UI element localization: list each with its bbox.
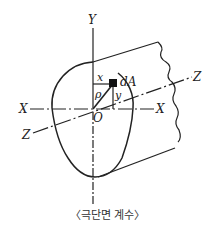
rho-label: ρ xyxy=(95,89,101,100)
dA-label: dA xyxy=(120,76,136,88)
polar-section-modulus-diagram: Y X X Z Z O dA x y ρ 〈극단면 계수〉 xyxy=(0,0,215,233)
figure-caption: 〈극단면 계수〉 xyxy=(0,206,215,222)
z-axis-right-label: Z xyxy=(193,71,201,83)
x-axis-right-label: X xyxy=(156,103,165,115)
shaft-bottom-edge xyxy=(98,148,175,177)
dA-element xyxy=(109,79,117,87)
z-axis-left-label: Z xyxy=(22,129,30,141)
origin-label: O xyxy=(93,112,103,124)
y-distance-label: y xyxy=(115,90,121,101)
y-axis-top-label: Y xyxy=(88,14,96,26)
x-distance-label: x xyxy=(97,72,103,83)
shaft-cross-section-drawing xyxy=(0,0,215,233)
shaft-top-edge xyxy=(93,42,158,62)
break-line xyxy=(158,42,180,142)
x-axis-left-label: X xyxy=(19,103,28,115)
